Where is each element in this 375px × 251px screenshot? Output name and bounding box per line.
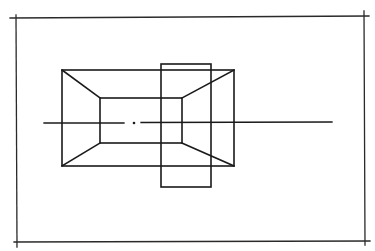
drawing-frame	[10, 11, 370, 247]
connector-top-right	[182, 70, 234, 98]
drawing-canvas	[0, 0, 375, 251]
frame-top-border	[10, 16, 369, 18]
frustum-projection	[62, 64, 234, 187]
connector-bottom-left	[62, 143, 100, 166]
overlapping-vertical-rectangle	[161, 64, 211, 187]
center-axis	[44, 122, 332, 125]
technical-drawing	[0, 0, 375, 251]
center-axis-dot	[133, 122, 136, 125]
center-axis-dash-right	[141, 122, 332, 123]
connector-bottom-right	[182, 143, 234, 166]
frame-right-border	[364, 11, 365, 245]
connector-top-left	[62, 70, 100, 98]
frustum-inner-rectangle	[100, 98, 182, 143]
frame-bottom-border	[14, 241, 370, 242]
frame-left-border	[16, 15, 17, 247]
